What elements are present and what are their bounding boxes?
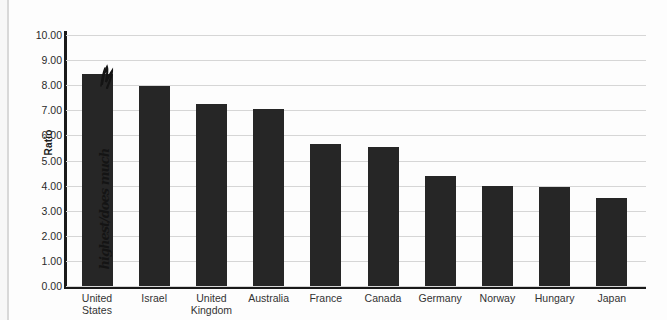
bar [82, 74, 113, 286]
x-tick-label-line: States [60, 304, 134, 316]
bar [482, 186, 513, 286]
bar [425, 176, 456, 286]
chart-page: Ratio 0.001.002.003.004.005.006.007.008.… [0, 0, 667, 320]
x-tick-label: Japan [575, 292, 649, 304]
bar [368, 147, 399, 286]
y-tick-label: 0.00 [18, 280, 62, 292]
y-tick-label: 6.00 [18, 129, 62, 141]
plot-area [66, 35, 646, 286]
gridline [66, 286, 646, 287]
y-tick-label: 4.00 [18, 180, 62, 192]
bar [196, 104, 227, 286]
bar-chart: Ratio 0.001.002.003.004.005.006.007.008.… [0, 0, 667, 320]
bar [539, 187, 570, 286]
y-tick-label: 7.00 [18, 104, 62, 116]
x-tick-label-line: Kingdom [174, 304, 248, 316]
y-tick-label: 9.00 [18, 54, 62, 66]
y-tick-label: 2.00 [18, 230, 62, 242]
y-tick-label: 5.00 [18, 155, 62, 167]
bar [596, 198, 627, 286]
y-axis-tick-labels: 0.001.002.003.004.005.006.007.008.009.00… [10, 0, 62, 320]
y-tick-label: 8.00 [18, 79, 62, 91]
x-tick-label-line: Japan [575, 292, 649, 304]
gridline [66, 60, 646, 61]
y-tick-label: 1.00 [18, 255, 62, 267]
gridline [66, 35, 646, 36]
y-tick-label: 10.00 [18, 29, 62, 41]
bar [310, 144, 341, 286]
bar [253, 109, 284, 286]
y-tick-label: 3.00 [18, 205, 62, 217]
bar [139, 86, 170, 286]
